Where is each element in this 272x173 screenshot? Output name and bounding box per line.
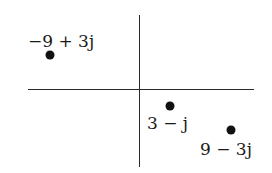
point-label-9-minus-3j: 9 − 3j <box>200 141 252 158</box>
complex-plane-figure: −9 + 3j 3 − j 9 − 3j <box>0 0 272 173</box>
point-dot-9-minus-3j <box>227 126 236 135</box>
point-dot-3-minus-j <box>166 102 175 111</box>
real-axis <box>28 89 254 90</box>
point-label-3-minus-j: 3 − j <box>147 115 188 132</box>
point-label-neg9-plus-3j: −9 + 3j <box>28 33 94 50</box>
point-dot-neg9-plus-3j <box>46 51 55 60</box>
imaginary-axis <box>139 15 140 167</box>
